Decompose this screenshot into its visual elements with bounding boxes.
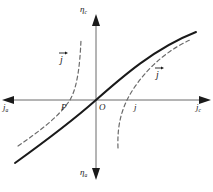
point-label-p: P bbox=[61, 103, 67, 112]
cathodic-partial-current-curve bbox=[118, 40, 190, 148]
plot-canvas bbox=[0, 0, 213, 192]
curve-label-j-vector-right: j bbox=[156, 70, 159, 80]
axis-label-j-a: ja bbox=[3, 103, 8, 112]
axis-arrow-down-icon bbox=[92, 168, 100, 180]
origin-label: O bbox=[99, 103, 106, 112]
vector-arrow-icon bbox=[155, 65, 164, 70]
current-overpotential-figure: ηc ηa ja jc O P j j j bbox=[0, 0, 213, 192]
vector-arrow-icon bbox=[59, 50, 68, 55]
point-label-j: j bbox=[134, 103, 137, 112]
axis-label-eta-c: ηc bbox=[80, 5, 87, 14]
axis-arrow-up-icon bbox=[92, 14, 100, 26]
curve-label-j-vector-left: j bbox=[60, 55, 63, 65]
anodic-partial-current-curve bbox=[18, 40, 81, 146]
axis-label-j-c: jc bbox=[196, 103, 201, 112]
axis-label-eta-a: ηa bbox=[80, 168, 87, 177]
